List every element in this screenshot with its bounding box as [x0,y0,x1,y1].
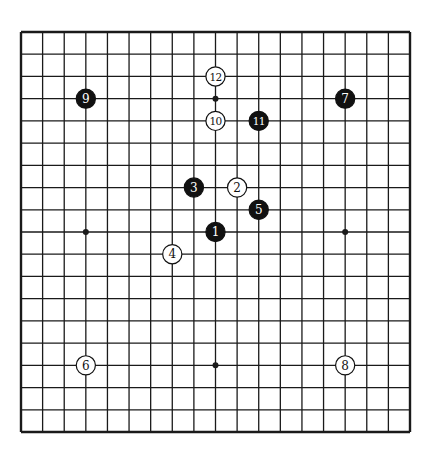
move-number: 4 [168,247,176,261]
stone-black-1: 1 [206,222,225,241]
move-number: 8 [341,359,349,373]
move-number: 1 [212,225,220,239]
move-number: 11 [253,115,265,127]
star-point [213,96,219,102]
move-number: 6 [82,359,90,373]
move-number: 12 [210,71,222,83]
stone-white-2: 2 [228,178,247,197]
move-number: 7 [341,92,349,106]
star-point [83,229,89,235]
stone-black-9: 9 [76,89,95,108]
move-number: 5 [255,203,263,217]
stone-black-5: 5 [249,200,268,219]
stone-white-8: 8 [336,356,355,375]
go-board: 123456789101112 [0,0,431,469]
stone-white-4: 4 [163,245,182,264]
stone-white-6: 6 [76,356,95,375]
stone-white-12: 12 [206,67,225,86]
move-number: 2 [233,181,241,195]
move-number: 9 [82,92,90,106]
star-point [213,362,219,368]
move-number: 10 [210,115,222,127]
stone-white-10: 10 [206,111,225,130]
star-point [342,229,348,235]
stone-black-3: 3 [184,178,203,197]
move-number: 3 [190,181,198,195]
stone-black-11: 11 [249,111,268,130]
stone-black-7: 7 [336,89,355,108]
